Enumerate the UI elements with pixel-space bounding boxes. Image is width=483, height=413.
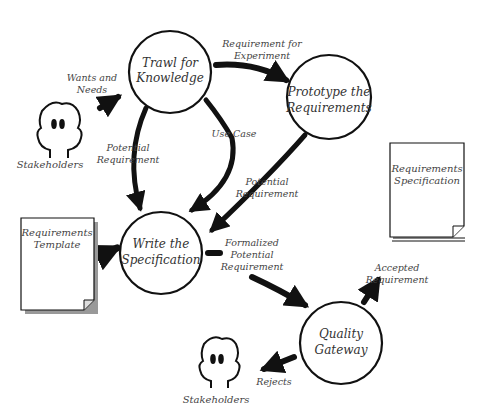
flow-label-req-experiment: Requirement for: [221, 38, 303, 49]
process-label: Gateway: [315, 343, 368, 357]
flow-label-rejects: Rejects: [255, 376, 291, 387]
process-label: Trawl for: [142, 56, 199, 70]
arrow-use-case: [192, 100, 233, 210]
flow-label-formalized: Formalized: [224, 237, 279, 248]
arrow-rejects: [264, 357, 294, 369]
document-template: Requirements Template: [20, 218, 98, 314]
process-label: Prototype the: [287, 85, 371, 99]
process-quality: Quality Gateway: [300, 302, 382, 384]
actor-stakeholders-bottom: Stakeholders: [183, 337, 250, 405]
process-label: Requirements: [285, 101, 371, 115]
arrow-req-experiment: [216, 65, 286, 80]
process-write: Write the Specification: [120, 212, 202, 294]
document-label: Template: [34, 239, 81, 250]
document-label: Requirements: [390, 163, 462, 174]
document-label: Specification: [394, 175, 460, 186]
flow-label-req-experiment: Experiment: [233, 50, 290, 61]
flow-label-formalized: Requirement: [220, 261, 284, 272]
flow-label-use-case: Use Case: [212, 128, 257, 139]
document-label: Requirements: [20, 227, 92, 238]
process-label: Knowledge: [135, 71, 204, 85]
process-trawl: Trawl for Knowledge: [129, 31, 211, 113]
process-label: Write the: [133, 237, 190, 251]
flow-label-wants: Wants and: [67, 72, 117, 83]
arrow-wants-needs: [100, 97, 118, 108]
actor-stakeholders-top: Stakeholders: [17, 103, 84, 170]
process-label: Quality: [319, 327, 363, 341]
flow-label-formalized: Potential: [230, 249, 274, 260]
flow-label-accepted: Requirement: [365, 274, 429, 285]
document-spec: Requirements Specification: [390, 143, 465, 241]
arrow-template: [96, 248, 117, 258]
flow-label-potential-right: Requirement: [235, 188, 299, 199]
actor-label: Stakeholders: [183, 394, 250, 405]
head-icon: [37, 103, 81, 158]
flow-label-potential-left: Potential: [106, 142, 150, 153]
requirements-process-diagram: Trawl for Knowledge Prototype the Requir…: [0, 0, 483, 413]
flow-label-wants: Needs: [76, 84, 108, 95]
actor-label: Stakeholders: [17, 159, 84, 170]
flow-label-potential-right: Potential: [245, 176, 289, 187]
process-prototype: Prototype the Requirements: [285, 55, 371, 139]
flow-label-accepted: Accepted: [374, 262, 420, 273]
flow-label-potential-left: Requirement: [96, 154, 160, 165]
process-label: Specification: [121, 253, 200, 267]
